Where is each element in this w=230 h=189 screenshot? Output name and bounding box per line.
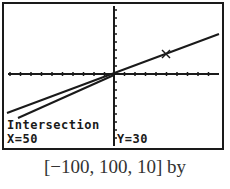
graph-line-2 — [18, 75, 114, 118]
calculator-screen: Intersection X=50 Y=30 — [2, 2, 224, 150]
intersection-label: Intersection — [7, 119, 100, 131]
window-caption: [−100, 100, 10] by — [0, 156, 230, 178]
x-value-readout: X=50 — [7, 133, 38, 145]
y-value-readout: Y=30 — [117, 133, 148, 145]
